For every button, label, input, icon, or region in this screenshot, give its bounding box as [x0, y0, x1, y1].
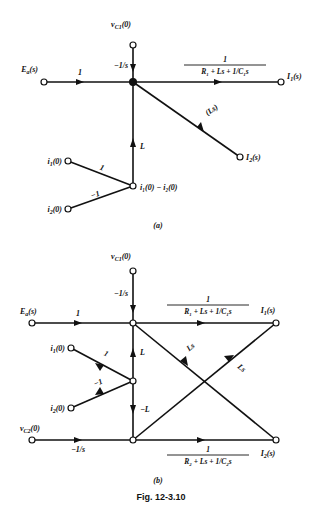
label-i1-b: I1(s) [260, 306, 276, 316]
gain-sum-to-junction-a: L [139, 142, 145, 151]
label-i20-a: i2(0) [47, 205, 62, 215]
gain-ea-to-top-b: 1 [76, 309, 80, 318]
gain-top-to-i1-b: 1 R₁ + Ls + 1/C₁s [167, 295, 249, 316]
arrowhead-ea-to-top-b [74, 320, 82, 326]
node-i2-a [237, 154, 243, 160]
arrowhead-mid-to-top-b [130, 348, 136, 357]
gain-vc1-to-top-b: −1/s [114, 289, 128, 298]
edge-i2-to-junction-a [133, 82, 240, 157]
label-sum-node-a: i₁(0) − i₂(0) [140, 183, 178, 192]
node-vc2-b [29, 437, 35, 443]
gain-i10-to-mid-b: 1 [102, 349, 110, 359]
node-junction-a [130, 79, 137, 86]
gain-vc1-to-junction-a: −1/s [114, 61, 128, 70]
label-i2-b: I2(s) [260, 449, 276, 459]
figure-caption: Fig. 12-3.10 [136, 492, 185, 502]
node-i10-a [65, 158, 71, 164]
gain-i10-to-sum-a: 1 [98, 163, 105, 173]
arrowhead-ea-to-junction-a [76, 79, 84, 85]
gain-bottom-to-i2-numerator-b: 1 [206, 445, 210, 454]
panel-label-b: (b) [153, 476, 163, 485]
signal-flow-graph-figure: vC1(0) Ea(s) I1(s) I2(s) i1(0) i2(0) i₁(… [0, 0, 322, 516]
node-ea-a [41, 79, 47, 85]
gain-i2-to-top-diag-b: Ls [184, 341, 197, 354]
node-top-junction-b [130, 320, 136, 326]
gain-top-to-i1-denominator-b: R₁ + Ls + 1/C₁s [183, 307, 232, 316]
node-bottom-junction-b [130, 437, 136, 443]
arrowhead-i2-to-junction-a [197, 122, 204, 132]
panel-label-a: (a) [153, 221, 163, 230]
label-vc1-a: vC1(0) [111, 20, 131, 30]
gain-junction-to-i1-numerator-a: 1 [223, 55, 227, 64]
node-ea-b [29, 320, 35, 326]
arrowhead-vc2-to-bottom-b [74, 437, 82, 443]
label-i20-b: i2(0) [50, 404, 65, 414]
gain-bottom-to-i2-denominator-b: R₂ + Ls + 1/C₂s [183, 457, 232, 466]
node-vc1-a [130, 42, 136, 48]
label-i1-a: I1(s) [286, 72, 302, 82]
gain-i20-to-mid-b: −1 [92, 377, 104, 389]
gain-top-to-i1-numerator-b: 1 [206, 295, 210, 304]
label-ea-b: Ea(s) [19, 307, 37, 317]
label-i2-a: I2(s) [245, 153, 261, 163]
gain-junction-to-i1-a: 1 R₁ + Ls + 1/C₁s [184, 55, 266, 76]
gain-bottom-to-i2-b: 1 R₂ + Ls + 1/C₂s [167, 445, 249, 466]
label-ea-a: Ea(s) [20, 65, 38, 75]
arrowhead-bottom-to-i2-b [197, 437, 205, 443]
arrowhead-sum-to-junction-a [130, 138, 136, 147]
node-i20-a [65, 206, 71, 212]
panel-b: vC1(0) Ea(s) I1(s) i1(0) i2(0) vC2(0) I2… [19, 252, 279, 485]
arrowhead-vc1-to-junction-a [130, 64, 136, 72]
gain-junction-to-i1-denominator-a: R₁ + Ls + 1/C₁s [200, 67, 249, 76]
arrowhead-vc1-to-top-b [130, 305, 136, 313]
gain-ea-to-junction-a: 1 [78, 68, 82, 77]
node-mid-junction-b [130, 378, 136, 384]
gain-vc2-to-bottom-b: −1/s [71, 445, 85, 454]
label-vc2-b: vC2(0) [20, 424, 40, 434]
edge-i10-to-mid-b [71, 348, 133, 381]
label-i10-b: i1(0) [50, 344, 65, 354]
node-i10-b [68, 345, 74, 351]
gain-i1-to-bottom-diag-b: Ls [235, 361, 248, 374]
node-vc1-b [130, 268, 136, 274]
gain-i2-to-junction-a: (Ls) [204, 102, 220, 117]
node-sum-a [130, 183, 136, 189]
arrowhead-top-to-i1-b [197, 320, 205, 326]
node-i1-b [273, 320, 279, 326]
arrowhead-mid-to-bottom-b [130, 405, 136, 414]
figure-canvas: vC1(0) Ea(s) I1(s) I2(s) i1(0) i2(0) i₁(… [0, 0, 322, 516]
node-i1-a [278, 79, 284, 85]
label-vc1-b: vC1(0) [111, 252, 131, 262]
label-i10-a: i1(0) [47, 157, 62, 167]
gain-mid-to-bottom-b: −L [140, 405, 150, 414]
node-i20-b [68, 405, 74, 411]
gain-mid-to-top-b: L [139, 348, 145, 357]
panel-a: vC1(0) Ea(s) I1(s) I2(s) i1(0) i2(0) i₁(… [20, 20, 302, 230]
node-i2-b [273, 437, 279, 443]
arrowhead-junction-to-i1-a [214, 79, 222, 85]
